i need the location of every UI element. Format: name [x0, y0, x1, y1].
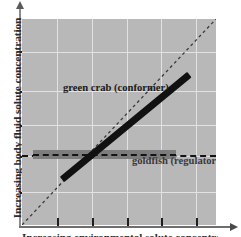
regulator-label: goldfish (regulator): [132, 155, 216, 166]
conformer-label: green crab (conformer): [63, 82, 169, 93]
vertical-gridline: [161, 19, 162, 225]
x-axis-title: Increasing environmental solute concentr…: [22, 231, 218, 237]
vertical-gridline: [57, 19, 58, 225]
plot-area: green crab (conformer) goldfish (regulat…: [22, 19, 216, 225]
x-axis-line: [19, 226, 231, 228]
horizontal-gridline: [22, 192, 216, 193]
vertical-gridline: [196, 19, 197, 225]
vertical-gridline: [92, 19, 93, 225]
isosmotic-reference-line: [22, 19, 216, 225]
horizontal-gridline: [22, 125, 216, 126]
figure-container: Increasing body fluid solute concentrati…: [0, 0, 241, 237]
x-axis-arrow-icon: [230, 223, 238, 231]
horizontal-gridline: [22, 52, 216, 53]
